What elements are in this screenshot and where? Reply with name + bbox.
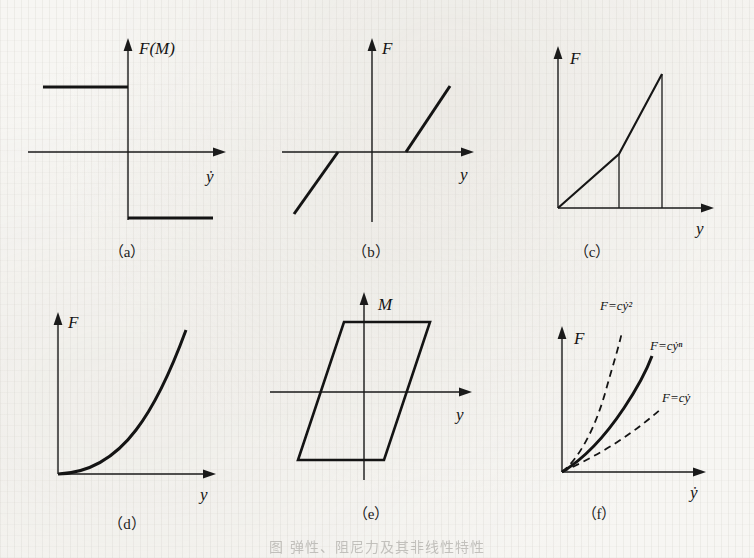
- panel-a-caption: （a）: [10, 240, 244, 261]
- panel-a-x-axis-label: ẏ: [204, 167, 214, 186]
- panel-c-bilinear-curve: [558, 74, 662, 208]
- panel-c: F y （c）: [500, 22, 744, 268]
- panel-b-caption: （b）: [254, 240, 488, 261]
- panel-b: F y （b）: [254, 22, 488, 268]
- panel-a-x-axis-arrow: [213, 148, 226, 157]
- panel-f-plot: F ẏ F=cẏ² F=cẏⁿ F=cẏ: [500, 280, 750, 496]
- panel-f-y-axis-label: F: [573, 329, 585, 348]
- panel-d-x-axis-label: y: [198, 485, 208, 504]
- panel-b-negative-branch: [294, 152, 338, 214]
- panel-b-x-axis-label: y: [458, 165, 468, 184]
- panel-d-y-axis-label: F: [67, 313, 79, 332]
- panel-b-x-axis-arrow: [461, 148, 474, 157]
- panel-f-quadratic-label: F=cẏ²: [599, 298, 633, 313]
- panel-d: F y （d）: [10, 296, 244, 536]
- panel-a-y-axis-arrow: [124, 38, 133, 51]
- panel-f-quadratic-damping-curve: [562, 332, 622, 472]
- panel-c-y-axis-label: F: [569, 49, 581, 68]
- panel-d-x-axis-arrow: [203, 470, 216, 479]
- panel-b-y-axis-arrow: [368, 38, 377, 51]
- panel-f: F ẏ F=cẏ² F=cẏⁿ F=cẏ （f）: [500, 280, 750, 536]
- panel-e-x-axis-label: y: [454, 405, 464, 424]
- panel-c-y-axis-arrow: [554, 46, 563, 59]
- panel-e-y-axis-label: M: [377, 295, 393, 314]
- panel-a-plot: F(M) ẏ: [10, 22, 244, 237]
- panel-c-x-axis-label: y: [694, 219, 704, 238]
- panel-c-caption: （c）: [470, 240, 714, 261]
- panel-b-positive-branch: [406, 86, 450, 152]
- panel-f-caption: （f）: [474, 502, 724, 523]
- panel-e-x-axis-arrow: [459, 388, 472, 397]
- panel-d-y-axis-arrow: [54, 312, 63, 325]
- panel-f-power-law-damping-curve: [562, 356, 652, 472]
- panel-b-y-axis-label: F: [381, 39, 393, 58]
- panel-f-y-axis-arrow: [558, 326, 567, 339]
- panel-e-plot: M y: [254, 280, 488, 496]
- panel-c-x-axis-arrow: [701, 204, 714, 213]
- figure-page: F(M) ẏ （a） F y （b）: [0, 0, 754, 558]
- figure-bottom-caption: 图 弹性、阻尼力及其非线性特性: [0, 536, 754, 556]
- panel-f-linear-label: F=cẏ: [661, 390, 690, 405]
- panel-c-plot: F y: [500, 22, 744, 237]
- panel-grid: F(M) ẏ （a） F y （b）: [0, 0, 754, 558]
- panel-d-caption: （d）: [10, 512, 244, 533]
- panel-e: M y （e）: [254, 280, 488, 536]
- panel-e-caption: （e）: [254, 502, 488, 523]
- panel-f-x-axis-arrow: [693, 468, 706, 477]
- panel-e-y-axis-arrow: [360, 292, 369, 305]
- panel-b-plot: F y: [254, 22, 488, 237]
- panel-f-power-law-label: F=cẏⁿ: [649, 338, 683, 353]
- panel-a-y-axis-label: F(M): [138, 39, 175, 58]
- panel-d-progressive-curve: [58, 330, 186, 474]
- panel-d-plot: F y: [10, 296, 244, 496]
- panel-a: F(M) ẏ （a）: [10, 22, 244, 268]
- panel-f-x-axis-label: ẏ: [688, 483, 698, 502]
